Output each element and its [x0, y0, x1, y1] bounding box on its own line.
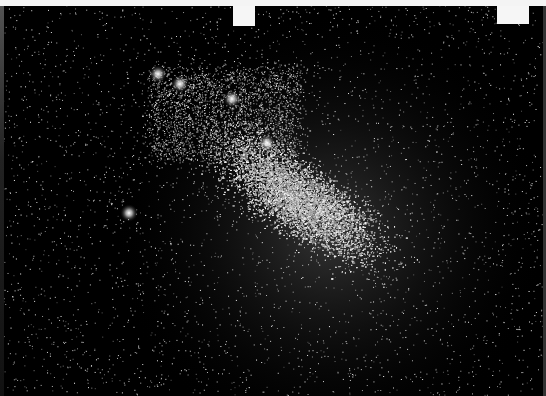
top-banner [0, 0, 546, 6]
star-field-image [0, 0, 546, 396]
white-patch-center [233, 6, 255, 26]
white-patch-right [497, 6, 529, 24]
left-edge-shading [0, 0, 4, 396]
